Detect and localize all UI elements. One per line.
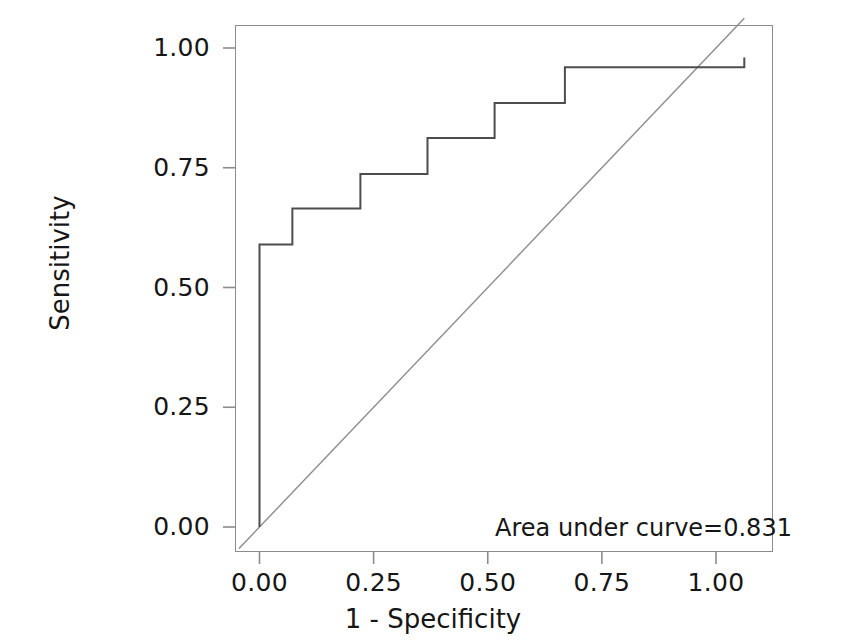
x-axis-title: 1 - Specificity xyxy=(0,606,866,632)
y-axis-title: Sensitivity xyxy=(47,153,73,373)
auc-annotation: Area under curve=0.831 xyxy=(516,505,771,551)
reference-diagonal-line xyxy=(239,18,744,548)
y-tick-label-100: 1.00 xyxy=(130,35,210,60)
y-tick-marks xyxy=(223,48,235,527)
x-tick-label-025: 0.25 xyxy=(319,570,429,595)
y-tick-label-000: 0.00 xyxy=(130,514,210,539)
x-tick-label-075: 0.75 xyxy=(547,570,657,595)
roc-curve-line xyxy=(260,58,745,527)
roc-curve-figure: 1.00 0.75 0.50 0.25 0.00 0.00 0.25 0.50 … xyxy=(0,0,866,644)
x-tick-label-100: 1.00 xyxy=(661,570,771,595)
y-tick-label-025: 0.25 xyxy=(130,394,210,419)
x-tick-label-050: 0.50 xyxy=(433,570,543,595)
x-tick-marks xyxy=(260,552,717,564)
y-tick-label-075: 0.75 xyxy=(130,155,210,180)
y-axis-tick-labels: 1.00 0.75 0.50 0.25 0.00 xyxy=(90,0,210,644)
y-tick-label-050: 0.50 xyxy=(130,275,210,300)
x-tick-label-000: 0.00 xyxy=(205,570,315,595)
